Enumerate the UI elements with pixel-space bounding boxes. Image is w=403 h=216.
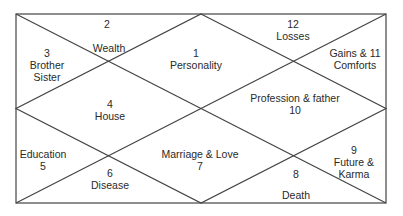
house-11: Gains & 11Comforts [329,47,380,71]
house-label-line: Education [20,148,67,160]
house-6: 6Disease [91,167,129,191]
house-10: Profession & father10 [250,92,339,116]
house-label-line: 7 [161,160,238,172]
house-8: 8 [293,168,299,180]
house-2-label: Wealth [93,42,126,54]
house-label-line: 4 [95,98,125,110]
chart-frame [0,0,403,216]
house-label-line: 2 [104,18,110,30]
house-label-line: 9 [334,144,374,156]
house-5: Education5 [20,148,67,172]
house-label-line: Marriage & Love [161,148,238,160]
house-8-label: Death [282,189,310,201]
house-label-line: Future & [334,156,374,168]
house-label-line: 8 [293,168,299,180]
house-label-line: Profession & father [250,92,339,104]
house-label-line: House [95,110,125,122]
house-9: 9Future &Karma [334,144,374,180]
house-label-line: 6 [91,167,129,179]
house-3: 3BrotherSister [30,47,64,83]
house-label-line: Gains & 11 [329,47,380,59]
house-label-line: Personality [170,59,222,71]
house-label-line: 5 [20,160,67,172]
house-label-line: 10 [250,104,339,116]
house-label-line: 1 [170,47,222,59]
house-label-line: Brother [30,59,64,71]
house-7: Marriage & Love7 [161,148,238,172]
house-label-line: Comforts [329,59,380,71]
house-2: 2 [104,18,110,30]
house-4: 4House [95,98,125,122]
house-label-line: Disease [91,179,129,191]
house-label-line: Death [282,189,310,201]
house-label-line: 12 [276,18,309,30]
house-label-line: Karma [334,168,374,180]
house-label-line: Losses [276,30,309,42]
house-label-line: Sister [30,71,64,83]
house-label-line: Wealth [93,42,126,54]
house-label-line: 3 [30,47,64,59]
house-12: 12Losses [276,18,309,42]
house-1: 1Personality [170,47,222,71]
